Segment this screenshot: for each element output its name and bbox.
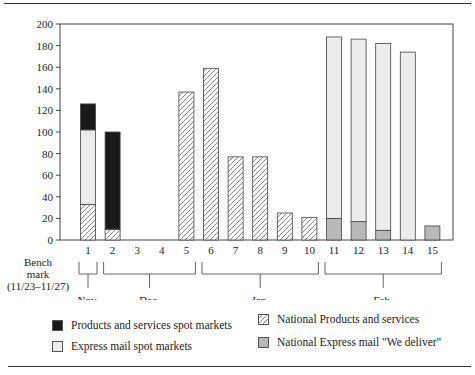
bar-segment [179,92,194,240]
black-swatch-icon [52,320,63,331]
legend-item-express-spot: Express mail spot markets [52,340,192,352]
y-tick-label: 180 [37,40,54,52]
x-tick-label: 11 [329,244,340,256]
x-tick-label: 14 [402,244,414,256]
month-label: Feb. [374,294,394,300]
y-tick-label: 200 [37,18,54,30]
y-tick-label: 60 [42,169,54,181]
month-brackets: Nov.Dec.Jan.Feb. [78,262,442,300]
benchmark-label: Bench [24,256,53,268]
month-label: Jan. [251,294,269,300]
bar-segment [376,43,391,230]
bar-segment [105,229,120,240]
y-tick-label: 40 [42,191,54,203]
x-tick-label: 12 [353,244,364,256]
legend-label: National Express mail "We deliver" [277,336,441,348]
legend-label: National Products and services [277,313,419,325]
x-tick-label: 10 [304,244,316,256]
y-tick-label: 160 [37,61,54,73]
x-tick-label: 4 [159,244,165,256]
bar-segment [204,68,219,240]
benchmark-label: mark [27,268,50,280]
x-axis-labels: 123456789101112131415Benchmark(11/23–11/… [7,244,438,293]
bar-segment [327,37,342,218]
footer-rule [8,366,471,367]
bar-segment [81,130,96,205]
benchmark-label: (11/23–11/27) [7,280,69,293]
bar-segment [327,218,342,240]
bar-segment [376,230,391,240]
x-tick-label: 1 [85,244,91,256]
light-gray-swatch-icon [52,341,63,352]
bar-segment [351,222,366,240]
bar-segment [351,39,366,222]
chart-bars [81,37,440,240]
stacked-bar-chart: 020406080100120140160180200 123456789101… [0,0,475,300]
y-tick-label: 20 [42,212,54,224]
x-tick-label: 8 [257,244,263,256]
dark-gray-swatch-icon [258,337,269,348]
bar-segment [400,52,415,240]
bar-segment [105,132,120,229]
x-tick-label: 2 [110,244,116,256]
bar-segment [302,217,317,240]
bar-segment [253,157,268,240]
x-tick-label: 9 [282,244,288,256]
y-tick-label: 120 [37,104,54,116]
x-tick-label: 5 [184,244,190,256]
x-tick-label: 7 [233,244,239,256]
y-tick-label: 100 [37,126,54,138]
x-tick-label: 15 [427,244,439,256]
legend-item-products-spot: Products and services spot markets [52,319,232,331]
x-tick-label: 13 [378,244,390,256]
y-tick-label: 140 [37,83,54,95]
bar-segment [228,157,243,240]
y-tick-label: 0 [48,234,54,246]
x-tick-label: 3 [134,244,140,256]
y-tick-label: 80 [42,148,54,160]
bar-segment [277,213,292,240]
legend-item-national-express: National Express mail "We deliver" [258,336,441,348]
month-label: Dec. [139,294,160,300]
month-label: Nov. [78,294,99,300]
bar-segment [81,204,96,240]
bar-segment [425,226,440,240]
hatched-swatch-icon [258,314,269,325]
legend-label: Products and services spot markets [71,319,232,331]
legend-item-national-products: National Products and services [258,313,419,325]
legend-label: Express mail spot markets [71,340,192,352]
x-tick-label: 6 [208,244,214,256]
bar-segment [81,104,96,130]
